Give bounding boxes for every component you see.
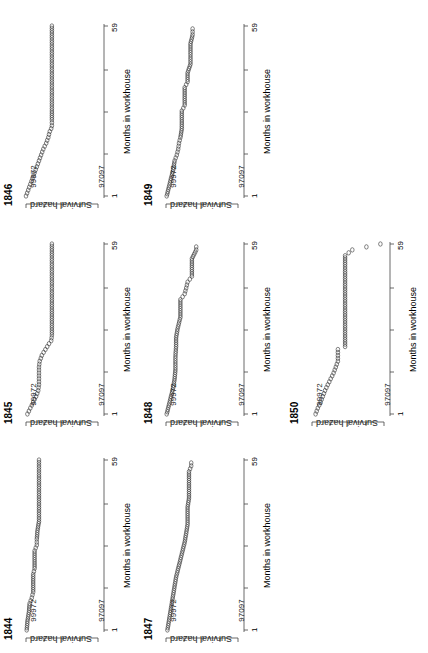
ytick-hi-label: 99972	[29, 383, 38, 405]
y-axis-label: Survival hazard	[170, 418, 232, 428]
ytick-lo-label: 97097	[383, 383, 392, 405]
y-axis-label: Survival hazard	[30, 200, 92, 210]
ytick-hi-label: 99972	[169, 383, 178, 405]
y-axis-label: Survival hazard	[170, 634, 232, 644]
y-axis-labels	[0, 222, 140, 434]
ytick-lo-label: 97097	[97, 599, 106, 621]
y-axis-labels	[140, 4, 280, 216]
panel-1845: 1845 1 59 Months in workhouse 9997297097…	[0, 222, 140, 434]
y-axis-label: Survival hazard	[30, 634, 92, 644]
y-axis-labels	[0, 438, 140, 650]
panel-1846: 1846 1 59 Months in workhouse 9997297097…	[0, 4, 140, 216]
y-axis-labels	[0, 4, 140, 216]
ytick-hi-label: 99972	[169, 165, 178, 187]
y-axis-label: Survival hazard	[316, 418, 378, 428]
panel-1848: 1848 1 59 Months in workhouse 9997297097…	[140, 222, 280, 434]
ytick-hi-label: 99972	[315, 383, 324, 405]
y-axis-label: Survival hazard	[30, 418, 92, 428]
panel-1850: 1850 1 59 Months in workhouse 9997297097…	[286, 222, 426, 434]
ytick-hi-label: 99972	[169, 599, 178, 621]
y-axis-labels	[140, 438, 280, 650]
panel-1847: 1847 1 59 Months in workhouse 9997297097…	[140, 438, 280, 650]
ytick-lo-label: 97097	[97, 165, 106, 187]
ytick-lo-label: 97097	[237, 383, 246, 405]
ytick-lo-label: 97097	[237, 165, 246, 187]
y-axis-labels	[286, 222, 426, 434]
ytick-lo-label: 97097	[97, 383, 106, 405]
ytick-hi-label: 99972	[29, 599, 38, 621]
y-axis-label: Survival hazard	[170, 200, 232, 210]
ytick-hi-label: 99972	[29, 165, 38, 187]
panel-1844: 1844 1 59 Months in workhouse 9997297097…	[0, 438, 140, 650]
ytick-lo-label: 97097	[237, 599, 246, 621]
y-axis-labels	[140, 222, 280, 434]
panel-1849: 1849 1 59 Months in workhouse 9997297097…	[140, 4, 280, 216]
